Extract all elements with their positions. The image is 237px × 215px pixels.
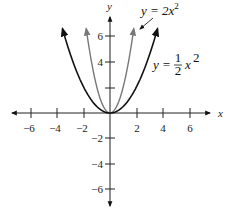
svg-text:y = 2x2: y = 2x2 — [139, 1, 179, 18]
y-tick-label: −6 — [91, 183, 103, 195]
y-tick-label: −2 — [91, 132, 103, 144]
x-tick-labels: −6 −4 −2 2 4 6 — [23, 122, 193, 134]
parabola-chart: x y −6 −4 −2 2 4 6 6 4 −2 −4 −6 — [0, 0, 237, 215]
x-tick-label: 4 — [160, 122, 166, 134]
x-axis-label: x — [217, 107, 223, 119]
y-tick-label: 6 — [98, 30, 104, 42]
svg-text:x: x — [184, 57, 191, 72]
y-axis-label: y — [106, 0, 112, 12]
y-tick-label: 4 — [98, 56, 104, 68]
svg-text:2: 2 — [193, 50, 200, 65]
label-2x-squared: y = 2x2 — [139, 1, 179, 29]
x-tick-label: 2 — [134, 122, 140, 134]
label-half-x-squared: y = 1 2 x 2 — [151, 50, 200, 78]
y-tick-label: −4 — [91, 158, 103, 170]
pointer-arrow — [140, 18, 153, 29]
x-tick-label: −4 — [49, 122, 61, 134]
x-tick-label: 6 — [187, 122, 193, 134]
svg-text:2: 2 — [175, 63, 182, 78]
x-tick-label: −6 — [23, 122, 35, 134]
x-tick-label: −2 — [76, 122, 88, 134]
svg-text:y =: y = — [151, 57, 171, 72]
